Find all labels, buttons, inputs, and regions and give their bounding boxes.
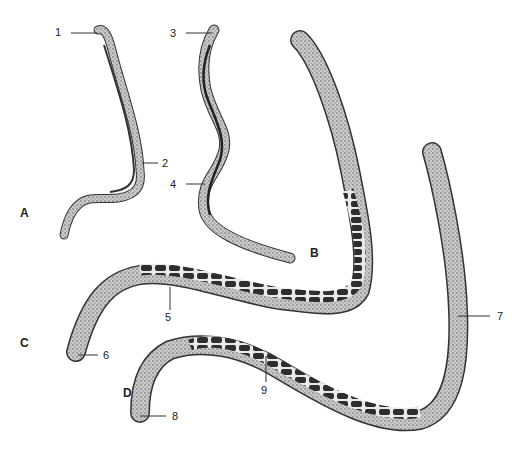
panel-label-b: B: [310, 247, 319, 259]
worm-b: [203, 30, 290, 258]
nematode-figure: 1 2 3 4 5 6 7 8 9 A B C D: [0, 0, 523, 449]
callout-2: 2: [162, 158, 168, 169]
panel-label-d: D: [123, 387, 132, 399]
callout-8: 8: [172, 411, 178, 422]
callout-1: 1: [55, 27, 61, 38]
callout-4: 4: [170, 179, 176, 190]
worm-a: [64, 30, 140, 235]
panel-label-c: C: [20, 337, 29, 349]
panel-label-a: A: [20, 207, 29, 219]
nematode-drawings: [0, 0, 523, 449]
callout-9: 9: [261, 385, 267, 396]
callout-3: 3: [170, 28, 176, 39]
callout-6: 6: [103, 350, 109, 361]
leader-lines: [71, 33, 490, 416]
callout-5: 5: [165, 312, 171, 323]
callout-7: 7: [497, 311, 503, 322]
